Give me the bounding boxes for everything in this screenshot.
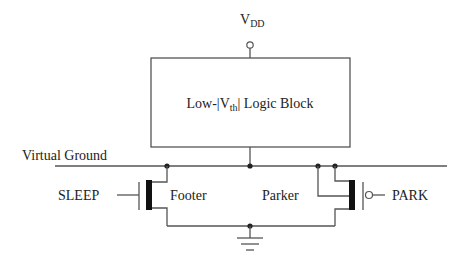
park-label: PARK (392, 188, 428, 203)
sleep-label: SLEEP (58, 188, 99, 203)
ground-icon (237, 238, 263, 250)
footer-source-wire (152, 208, 167, 226)
footer-label: Footer (170, 188, 207, 203)
logic-block-label: Low-|Vth| Logic Block (187, 96, 314, 113)
parker-source-wire (335, 209, 349, 226)
parker-transistor: Parker PARK (262, 166, 428, 226)
parker-label: Parker (262, 188, 299, 203)
footer-channel (146, 180, 152, 210)
parker-channel (349, 180, 355, 210)
footer-transistor: SLEEP Footer (58, 166, 207, 226)
pmos-bubble-icon (366, 192, 373, 199)
vdd-terminal-icon (247, 42, 253, 48)
node-dot (247, 163, 252, 168)
footer-drain-wire (152, 166, 167, 182)
virtual-ground-label: Virtual Ground (22, 148, 107, 163)
vdd-label: VDD (240, 12, 265, 29)
circuit-diagram: VDD Low-|Vth| Logic Block Virtual Ground… (0, 0, 468, 265)
parker-drain-wire (335, 166, 349, 181)
